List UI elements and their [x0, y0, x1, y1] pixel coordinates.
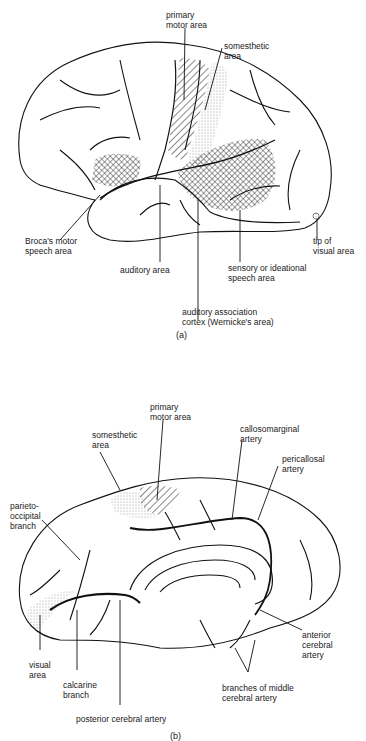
medial-brain-outline [19, 478, 340, 648]
tip-visual-area-mark [313, 213, 319, 219]
label-calcarine-branch: calcarine branch [63, 680, 97, 700]
label-primary-motor-area-a: primary motor area [166, 10, 207, 30]
label-somesthetic-area-a: somesthetic area [224, 41, 269, 61]
label-parieto-occipital-branch: parieto- occipital branch [10, 501, 41, 531]
label-branches-middle-cerebral-artery: branches of middle cerebral artery [222, 683, 294, 703]
caption-a: (a) [176, 330, 187, 340]
label-wernickes-area: auditory association cortex (Wernicke's … [182, 307, 274, 327]
label-sensory-speech-area: sensory or ideational speech area [228, 263, 306, 283]
label-visual-area: visual area [29, 660, 51, 680]
label-anterior-cerebral-artery: anterior cerebral artery [302, 630, 333, 660]
label-somesthetic-area-b: somesthetic area [92, 430, 137, 450]
label-callosomarginal-artery: callosomarginal artery [240, 424, 299, 444]
label-auditory-area: auditory area [120, 265, 170, 275]
broca-area-crosshatch [92, 154, 141, 187]
label-pericallosal-artery: pericallosal artery [282, 454, 325, 474]
label-primary-motor-area-b: primary motor area [150, 402, 191, 422]
label-posterior-cerebral-artery: posterior cerebral artery [76, 714, 166, 724]
caption-b: (b) [170, 731, 181, 741]
visual-area-dots [27, 590, 75, 630]
label-tip-visual-area: tip of visual area [313, 236, 354, 256]
label-brocas-area: Broca's motor speech area [25, 236, 77, 256]
